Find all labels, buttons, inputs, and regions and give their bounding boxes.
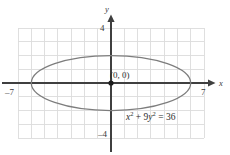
y-axis-arrowhead xyxy=(107,15,114,23)
equation-label: x2 + 9y2 = 36 xyxy=(126,113,175,123)
y-tick-label-bottom: –4 xyxy=(98,130,107,139)
y-axis-label: y xyxy=(105,5,109,14)
equation-plus: + xyxy=(133,112,143,122)
equation-rhs: 36 xyxy=(166,112,176,122)
x-axis-label: x xyxy=(219,79,223,88)
x-tick-label-right: 7 xyxy=(201,88,206,97)
equation-equals: = xyxy=(156,112,166,122)
y-tick-label-top: 4 xyxy=(100,24,105,33)
origin-point-label: (0, 0) xyxy=(110,71,130,80)
ellipse-graph-figure: –7 7 4 –4 x y (0, 0) x2 + 9y2 = 36 xyxy=(0,0,230,155)
x-tick-label-left: –7 xyxy=(5,88,14,97)
x-axis-arrowhead xyxy=(208,79,216,86)
origin-point xyxy=(108,80,113,85)
